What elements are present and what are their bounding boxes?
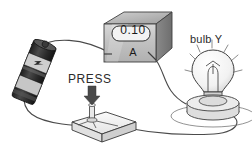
press-label: PRESS (68, 72, 112, 86)
press-down-arrow-icon (84, 86, 100, 105)
bulb (171, 40, 252, 127)
switch-button-base (87, 118, 97, 122)
battery (11, 37, 57, 106)
bulb-label: bulb Y (190, 33, 222, 45)
wire-meter-to-bulb (156, 60, 186, 104)
bulb-holder-collar (199, 96, 227, 106)
push-switch[interactable] (72, 86, 136, 142)
circuit-diagram: 0.10 A PRESS bulb Y (0, 0, 252, 150)
ammeter-unit-label: A (118, 46, 148, 58)
ammeter-reading: 0.10 (113, 23, 153, 37)
